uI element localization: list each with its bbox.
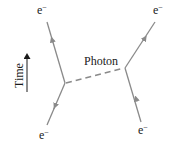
feynman-diagram: Time Photon e− e− e− e− — [0, 0, 174, 147]
photon-line — [66, 68, 124, 83]
time-label: Time — [12, 63, 26, 88]
electron-label-bottom-left: e− — [39, 128, 49, 142]
electron-line-top-left — [47, 22, 65, 83]
electron-label-bottom-right: e− — [138, 123, 148, 137]
time-axis: Time — [12, 56, 27, 92]
photon-label: Photon — [84, 54, 118, 68]
electron-line-top-right — [125, 22, 155, 68]
electron-label-top-right: e− — [153, 3, 163, 17]
electron-line-bottom-right — [125, 68, 141, 122]
electron-line-bottom-left — [47, 83, 65, 125]
electron-label-top-left: e− — [37, 3, 47, 17]
